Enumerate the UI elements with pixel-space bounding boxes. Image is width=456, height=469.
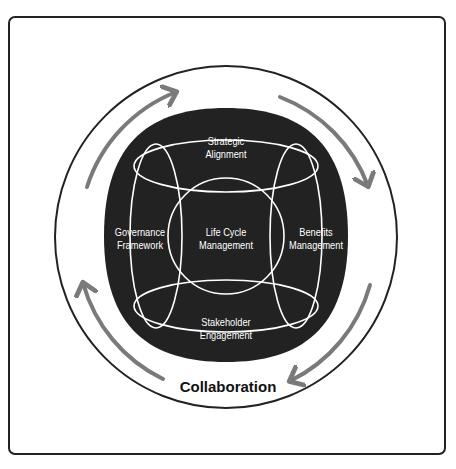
node-label-line1: Governance — [105, 226, 175, 239]
node-governance-framework: Governance Framework — [105, 226, 175, 252]
node-label-line1: Stakeholder — [191, 316, 261, 329]
node-label-line2: Management — [281, 239, 351, 252]
node-center-life-cycle: Life Cycle Management — [191, 226, 261, 252]
node-label-line2: Framework — [105, 239, 175, 252]
node-label-line1: Strategic — [191, 135, 261, 148]
center-label-line1: Life Cycle — [191, 226, 261, 239]
node-stakeholder-engagement: Stakeholder Engagement — [191, 316, 261, 342]
node-label-line1: Benefits — [281, 226, 351, 239]
node-strategic-alignment: Strategic Alignment — [191, 135, 261, 161]
node-label-line2: Alignment — [191, 148, 261, 161]
node-label-line2: Engagement — [191, 329, 261, 342]
node-benefits-management: Benefits Management — [281, 226, 351, 252]
outer-ring-label: Collaboration — [166, 378, 290, 395]
center-label-line2: Management — [191, 239, 261, 252]
